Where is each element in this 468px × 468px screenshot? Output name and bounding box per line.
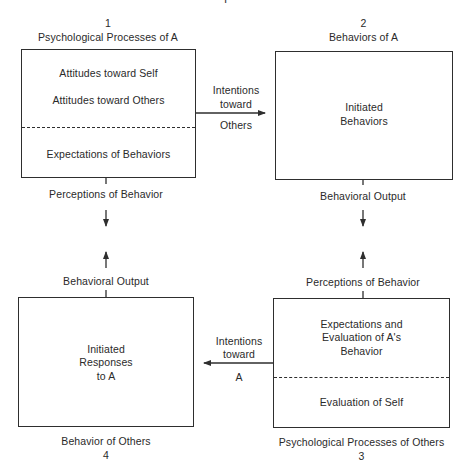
box2-title: Behaviors of A: [275, 31, 452, 44]
left-perceptions-label: Perceptions of Behavior: [16, 188, 196, 201]
box4-line2: Responses: [18, 356, 194, 369]
box1-divider: [22, 127, 195, 128]
box4-line1: Initiated: [18, 343, 194, 356]
bottom-arrow-label-1: Intentions: [199, 335, 279, 348]
top-arrow-label-3: Others: [196, 119, 276, 132]
box3-upper-line3: Behavior: [273, 345, 450, 358]
box1-number: 1: [21, 17, 195, 30]
box4-number: 4: [18, 449, 194, 462]
top-arrow-label-1: Intentions: [196, 84, 276, 97]
box2-number: 2: [275, 17, 452, 30]
left-behavioral-output-label: Behavioral Output: [16, 275, 196, 288]
box2-line2: Behaviors: [275, 115, 453, 128]
right-perceptions-label: Perceptions of Behavior: [273, 276, 453, 289]
box3-divider: [274, 377, 449, 378]
box3-upper-line1: Expectations and: [273, 318, 450, 331]
box1-attitudes-self: Attitudes toward Self: [21, 67, 196, 80]
box4-line3: to A: [18, 370, 194, 383]
box4-title: Behavior of Others: [18, 435, 194, 448]
box1-expectations: Expectations of Behaviors: [21, 148, 196, 161]
bottom-arrow-label-2: toward: [199, 348, 279, 361]
box3-upper-line2: Evaluation of A's: [273, 331, 450, 344]
box1-attitudes-others: Attitudes toward Others: [21, 94, 196, 107]
box3-evaluation-of-self: Evaluation of Self: [273, 396, 450, 409]
right-behavioral-output-label: Behavioral Output: [273, 190, 453, 203]
bottom-arrow-label-3: A: [199, 371, 279, 384]
box3-number: 3: [273, 450, 450, 463]
box3-title: Psychological Processes of Others: [263, 436, 460, 449]
box2-line1: Initiated: [275, 101, 453, 114]
top-arrow-label-2: toward: [196, 98, 276, 111]
box1-title: Psychological Processes of A: [11, 31, 205, 44]
